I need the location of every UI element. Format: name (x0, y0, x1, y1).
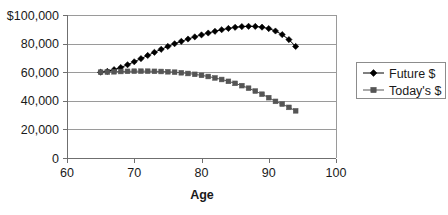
data-point-2-67 (112, 69, 117, 74)
data-point-2-84 (226, 79, 231, 84)
data-point-2-81 (206, 74, 211, 79)
data-point-2-89 (260, 92, 265, 97)
data-point-2-85 (233, 81, 238, 86)
data-point-2-79 (192, 72, 197, 77)
x-tick-label-60: 60 (60, 166, 74, 180)
data-point-1-82 (212, 28, 218, 34)
data-point-1-76 (172, 41, 178, 47)
data-point-1-90 (266, 25, 272, 31)
data-point-2-88 (253, 89, 258, 94)
data-point-2-74 (159, 69, 164, 74)
data-point-2-73 (152, 69, 157, 74)
data-point-1-86 (239, 23, 245, 29)
y-tick-label-100000: $100,000 (7, 9, 59, 23)
data-point-1-81 (205, 30, 211, 36)
data-point-2-68 (118, 69, 123, 74)
data-point-2-77 (179, 70, 184, 75)
y-tick-label-80000: 80,000 (21, 37, 59, 51)
data-point-2-93 (287, 105, 292, 110)
y-tick-label-60000: 60,000 (21, 66, 59, 80)
x-tick-label-70: 70 (127, 166, 141, 180)
x-tick-label-80: 80 (195, 166, 209, 180)
legend-label-2: Today's $ (389, 84, 441, 98)
data-point-1-88 (252, 23, 258, 29)
data-point-2-66 (105, 70, 110, 75)
data-point-1-91 (272, 28, 278, 34)
data-point-2-92 (280, 102, 285, 107)
data-point-2-86 (239, 83, 244, 88)
data-point-2-82 (213, 76, 218, 81)
data-point-1-83 (219, 27, 225, 33)
y-axis-tick-labels: 020,00040,00060,00080,000$100,000 (7, 9, 59, 166)
data-point-2-69 (125, 69, 130, 74)
data-point-2-80 (199, 73, 204, 78)
data-point-2-71 (139, 69, 144, 74)
x-axis-title: Age (190, 188, 214, 202)
series-line-2 (101, 71, 296, 111)
data-point-1-73 (151, 49, 157, 55)
chart-legend: Future $Today's $ (357, 63, 446, 99)
series-2 (98, 69, 298, 113)
data-point-2-65 (98, 70, 103, 75)
data-point-1-85 (232, 24, 238, 30)
series-1 (98, 23, 299, 75)
data-point-2-91 (273, 99, 278, 104)
data-point-2-75 (165, 69, 170, 74)
legend-label-1: Future $ (389, 67, 436, 81)
data-point-2-83 (219, 77, 224, 82)
x-tick-label-100: 100 (326, 166, 347, 180)
data-series-layer (98, 23, 299, 113)
y-tick-label-20000: 20,000 (21, 123, 59, 137)
data-point-1-89 (259, 24, 265, 30)
axis-ticks (63, 16, 337, 163)
data-point-1-80 (198, 32, 204, 38)
y-tick-label-0: 0 (52, 152, 59, 166)
data-point-1-79 (192, 34, 198, 40)
data-point-1-69 (124, 62, 130, 68)
data-point-1-74 (158, 46, 164, 52)
legend-marker-square-icon (371, 87, 376, 92)
data-point-2-70 (132, 69, 137, 74)
data-point-2-72 (145, 69, 150, 74)
data-point-1-70 (131, 59, 137, 65)
data-point-2-78 (186, 71, 191, 76)
data-point-2-90 (266, 95, 271, 100)
data-point-1-71 (138, 56, 144, 62)
data-point-2-87 (246, 86, 251, 91)
line-chart: 020,00040,00060,00080,000$100,000 607080… (0, 0, 448, 215)
data-point-1-87 (245, 23, 251, 29)
data-point-1-78 (185, 36, 191, 42)
data-point-1-72 (145, 52, 151, 58)
data-point-1-84 (225, 25, 231, 31)
x-tick-label-90: 90 (262, 166, 276, 180)
data-point-2-94 (293, 108, 298, 113)
y-tick-label-40000: 40,000 (21, 94, 59, 108)
data-point-1-77 (178, 38, 184, 44)
chart-container: 020,00040,00060,00080,000$100,000 607080… (0, 0, 448, 215)
x-axis-tick-labels: 60708090100 (60, 166, 346, 180)
data-point-2-76 (172, 70, 177, 75)
